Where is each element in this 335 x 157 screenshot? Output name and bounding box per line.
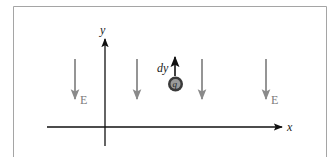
- field-label-right: E: [271, 93, 278, 107]
- electric-field-diagram: x y E E dy q: [0, 0, 335, 157]
- field-arrow-1: E: [75, 59, 87, 107]
- y-axis-label: y: [99, 23, 106, 37]
- field-label-left: E: [80, 93, 87, 107]
- charge-label: q: [173, 79, 178, 89]
- displacement-label: dy: [157, 61, 169, 75]
- field-arrow-4: E: [266, 59, 278, 107]
- x-axis-label: x: [286, 120, 293, 134]
- x-axis: x: [47, 120, 293, 134]
- charge-q: dy q: [157, 57, 183, 92]
